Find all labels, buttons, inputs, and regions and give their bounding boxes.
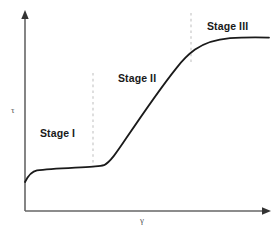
- plot-canvas: [0, 0, 279, 238]
- stage-2-label: Stage II: [118, 73, 156, 84]
- x-axis-label: γ: [140, 216, 144, 225]
- y-axis-label: τ: [11, 106, 15, 115]
- x-axis-arrowhead: [262, 207, 271, 214]
- y-axis-arrowhead: [21, 10, 28, 19]
- stage-1-label: Stage I: [40, 128, 75, 139]
- stage-curve-figure: Stage I Stage II Stage III τ γ: [0, 0, 279, 238]
- stage-3-label: Stage III: [207, 21, 248, 32]
- stress-strain-curve: [25, 37, 269, 182]
